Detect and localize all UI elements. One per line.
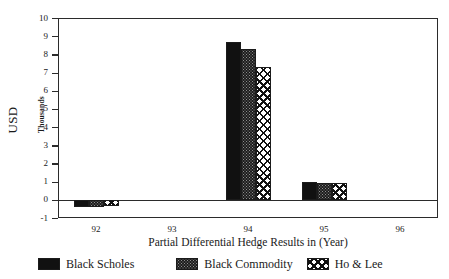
bar (317, 183, 332, 200)
bar (104, 200, 119, 206)
y-axis-tick-label: 9 (22, 32, 48, 41)
y-axis-tick-label: 5 (22, 104, 48, 113)
chart-legend: Black Scholes Black Commodity Ho & Lee (38, 254, 438, 274)
legend-item-black-scholes: Black Scholes (38, 257, 134, 272)
y-axis-tick-label: 4 (22, 123, 48, 132)
y-axis-tick-label: 8 (22, 50, 48, 59)
legend-item-ho-and-lee: Ho & Lee (307, 257, 383, 272)
bar (332, 183, 347, 199)
y-axis-tick-label: 0 (22, 195, 48, 204)
y-axis-tick-label: 6 (22, 86, 48, 95)
x-axis-tick-label: 94 (228, 224, 268, 234)
legend-label: Ho & Lee (335, 257, 383, 272)
x-axis-tick-label: 96 (380, 224, 420, 234)
y-axis-tick-mark (52, 218, 58, 219)
x-axis-title: Partial Differential Hedge Results in (Y… (58, 236, 438, 248)
bar (241, 49, 256, 200)
y-axis-tick-label: 1 (22, 177, 48, 186)
legend-item-black-commodity: Black Commodity (176, 257, 292, 272)
x-axis-tick-label: 93 (152, 224, 192, 234)
bar (89, 200, 104, 207)
y-axis-tick-label: 2 (22, 159, 48, 168)
legend-swatch-icon (38, 258, 60, 270)
legend-label: Black Scholes (66, 257, 134, 272)
legend-swatch-icon (176, 258, 198, 270)
bar-chart-figure: USD Thousands 109876543210-1 9293949596 … (0, 0, 449, 279)
bar (302, 182, 317, 200)
bars-layer (58, 18, 438, 218)
bar (256, 67, 271, 200)
legend-label: Black Commodity (204, 257, 292, 272)
y-axis-tick-label: 3 (22, 141, 48, 150)
x-axis-tick-label: 95 (304, 224, 344, 234)
bar (74, 200, 89, 207)
y-axis-tick-label: -1 (22, 214, 48, 223)
legend-swatch-icon (307, 258, 329, 270)
y-axis-tick-label: 7 (22, 68, 48, 77)
y-axis-title: USD (5, 85, 21, 155)
bar (226, 42, 241, 200)
x-axis-tick-label: 92 (76, 224, 116, 234)
y-axis-tick-label: 10 (22, 14, 48, 23)
